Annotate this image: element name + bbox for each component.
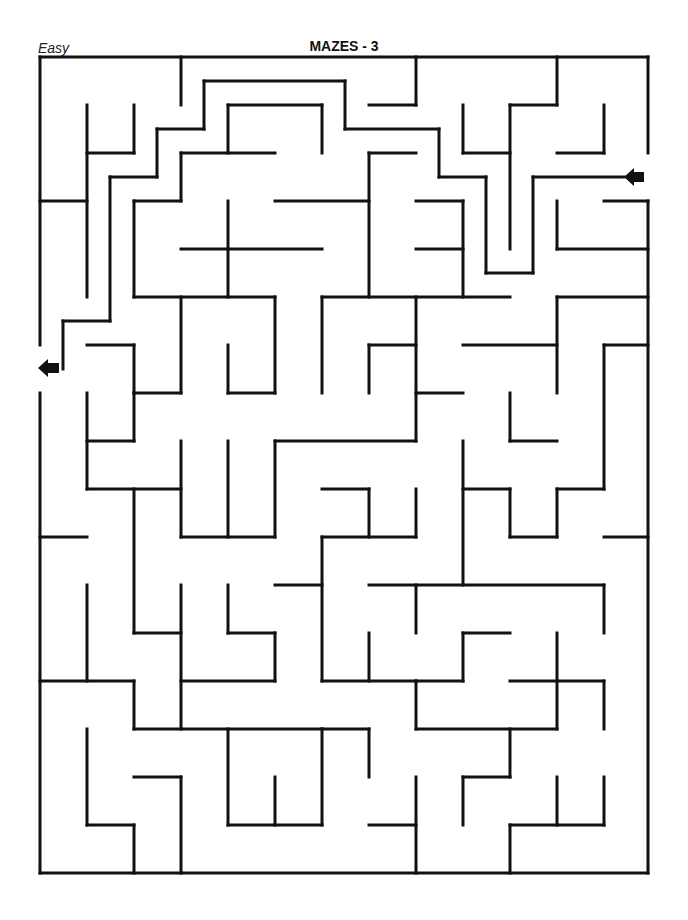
maze-board [0,0,688,920]
entrance-arrow-icon [624,168,644,186]
exit-arrow-icon [38,359,59,377]
maze-walls [40,57,648,873]
